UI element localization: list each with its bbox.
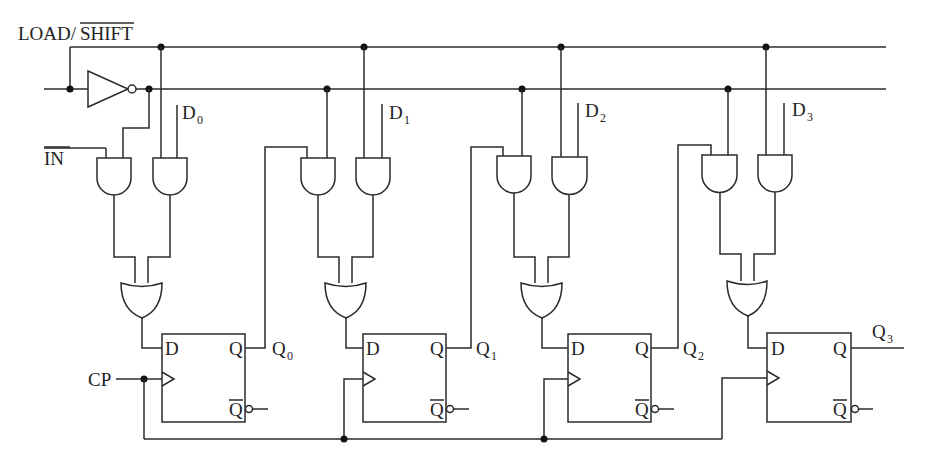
d2-subscript: 2 (600, 111, 606, 125)
stage-0: D 0 D Q Q Q 0 (97, 44, 307, 423)
or-to-d-wire (346, 318, 363, 348)
load-shift-label-prefix: LOAD/ (18, 23, 77, 44)
and-gate-shift (702, 155, 737, 193)
d-pin-label: D (771, 338, 785, 359)
d3-label: D (792, 99, 806, 120)
or-gate (325, 283, 366, 318)
shift-wire (123, 89, 149, 158)
and-to-or-wire (720, 192, 741, 281)
and-gate-shift (97, 158, 131, 195)
d0-subscript: 0 (197, 113, 203, 127)
junction-dot (67, 86, 74, 93)
d-pin-label: D (366, 338, 380, 359)
q-pin-label: Q (229, 338, 243, 359)
stage-1: D 1 D Q Q Q 1 (301, 44, 503, 443)
junction-dot (541, 436, 548, 443)
and-gate-load (552, 157, 587, 195)
serial-in-label: IN (44, 148, 64, 169)
qbar-pin-label: Q (635, 399, 649, 420)
and-to-or-wire (318, 195, 339, 283)
shift-register-schematic: LOAD/ SHIFT IN CP D 0 D (0, 0, 926, 470)
qbar-pin-label: Q (229, 399, 243, 420)
clock-branch (722, 378, 767, 439)
d1-subscript: 1 (404, 113, 410, 127)
q3-label: Q (872, 321, 886, 342)
or-to-d-wire (142, 318, 162, 348)
q-pin-label: Q (833, 338, 847, 359)
and-gate-load (153, 158, 187, 195)
junction-dot (341, 436, 348, 443)
inverter-gate (88, 71, 128, 107)
and-gate-load (758, 155, 792, 192)
d0-label: D (182, 102, 196, 123)
clock-branch (544, 379, 568, 439)
qbar-bubble (852, 406, 859, 413)
and-to-or-wire (548, 194, 569, 283)
q-pin-label: Q (430, 338, 444, 359)
d-pin-label: D (165, 338, 179, 359)
q1-subscript: 1 (491, 349, 497, 363)
q-feedforward-wire (245, 147, 307, 348)
and-to-or-wire (352, 195, 373, 283)
qbar-bubble (246, 406, 253, 413)
q0-subscript: 0 (287, 349, 293, 363)
clock-label: CP (88, 369, 111, 390)
q1-label: Q (476, 338, 490, 359)
qbar-bubble (652, 406, 659, 413)
d-pin-label: D (571, 338, 585, 359)
and-gate-load (356, 158, 390, 195)
load-shift-label-bar: SHIFT (80, 23, 133, 44)
or-to-d-wire (542, 318, 568, 348)
q3-subscript: 3 (887, 332, 893, 346)
d1-label: D (389, 102, 403, 123)
q2-subscript: 2 (698, 349, 704, 363)
d3-subscript: 3 (807, 110, 813, 124)
and-to-or-wire (114, 195, 135, 283)
or-gate (121, 283, 162, 318)
q2-label: Q (683, 338, 697, 359)
inverter-bubble (128, 85, 136, 93)
and-to-or-wire (148, 195, 170, 283)
stage-3: D 3 D Q Q Q 3 (702, 44, 904, 440)
and-to-or-wire (514, 193, 535, 283)
stage-2: D 2 D Q Q Q 2 (497, 44, 711, 443)
and-to-or-wire (754, 192, 775, 281)
clock-branch (344, 379, 363, 439)
q-pin-label: Q (635, 338, 649, 359)
qbar-pin-label: Q (430, 399, 444, 420)
d2-label: D (585, 100, 599, 121)
or-to-d-wire (748, 316, 767, 348)
and-gate-shift (301, 158, 335, 195)
qbar-bubble (447, 406, 454, 413)
q-feedforward-wire (446, 147, 503, 348)
and-gate-shift (497, 156, 531, 193)
qbar-pin-label: Q (833, 399, 847, 420)
or-gate (727, 281, 767, 316)
q0-label: Q (272, 338, 286, 359)
or-gate (521, 283, 562, 318)
